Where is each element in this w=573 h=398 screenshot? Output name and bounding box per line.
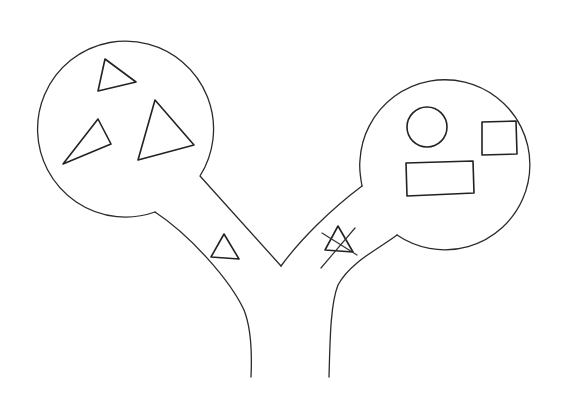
rectangle-shape xyxy=(406,161,474,196)
y-branch-diagram xyxy=(0,0,573,398)
left-branch-outer-edge xyxy=(155,212,251,377)
right-chamber-outline xyxy=(360,80,530,250)
triangle-small-top xyxy=(98,59,136,91)
diagram-canvas xyxy=(0,0,573,398)
triangle-left xyxy=(63,119,111,164)
right-branch-inner-edge xyxy=(281,186,362,266)
left-chamber-shapes xyxy=(63,59,194,164)
square-shape xyxy=(482,121,517,155)
circle-shape xyxy=(407,107,447,147)
crossed-triangle xyxy=(325,226,353,252)
right-branch-outer-edge xyxy=(329,235,397,377)
right-chamber-shapes xyxy=(406,107,517,196)
triangle-large-right xyxy=(138,100,194,160)
right-branch-crossed-triangle xyxy=(321,226,357,268)
left-branch-triangle xyxy=(211,234,239,259)
